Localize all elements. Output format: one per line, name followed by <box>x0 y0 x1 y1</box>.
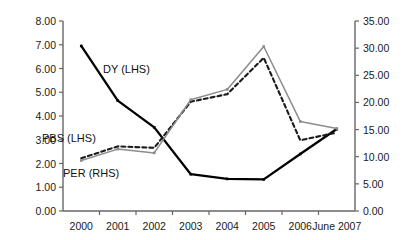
y-axis-left-tick: 7.00 <box>6 40 56 51</box>
y-axis-right-tick: 30.00 <box>363 43 389 54</box>
y-axis-left-tick: 5.00 <box>6 87 56 98</box>
y-axis-right-tick: 15.00 <box>363 125 389 136</box>
series-label: PER (RHS) <box>63 168 119 179</box>
y-axis-left-tick: 6.00 <box>6 64 56 75</box>
y-axis-left-tick: 8.00 <box>6 16 56 27</box>
series-marker <box>153 152 156 155</box>
series-marker <box>189 98 192 101</box>
y-axis-left-tick: 2.00 <box>6 159 56 170</box>
series-marker <box>299 153 302 156</box>
y-axis-right-tick: 10.00 <box>363 152 389 163</box>
series-marker <box>226 88 229 91</box>
y-axis-right-tick: 5.00 <box>363 179 383 190</box>
series-marker <box>335 127 338 130</box>
y-axis-left-tick: 0.00 <box>6 206 56 217</box>
series-label: PBS (LHS) <box>42 133 96 144</box>
series-marker <box>80 45 83 48</box>
series-marker <box>262 45 265 48</box>
series-marker <box>80 159 83 162</box>
series-marker <box>262 178 265 181</box>
y-axis-right-tick: 20.00 <box>363 97 389 108</box>
y-axis-right-tick: 0.00 <box>363 206 383 217</box>
chart-container: 0.001.002.003.004.005.006.007.008.00 0.0… <box>0 0 402 240</box>
series-marker <box>116 99 119 102</box>
series-marker <box>116 148 119 151</box>
x-axis-tick: June 2007 <box>307 221 367 232</box>
series-marker <box>226 178 229 181</box>
series-label: DY (LHS) <box>103 64 150 75</box>
series-marker <box>299 120 302 123</box>
series-marker <box>153 126 156 129</box>
y-axis-left-tick: 4.00 <box>6 111 56 122</box>
y-axis-right-tick: 35.00 <box>363 16 389 27</box>
series-marker <box>189 173 192 176</box>
y-axis-right-tick: 25.00 <box>363 70 389 81</box>
chart-plot-area <box>0 0 402 240</box>
y-axis-left-tick: 1.00 <box>6 182 56 193</box>
